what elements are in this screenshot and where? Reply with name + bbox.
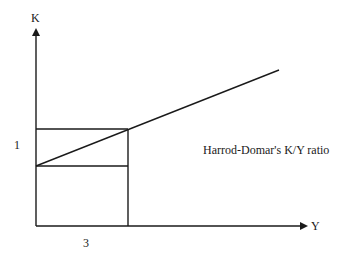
tick-label-3: 3 xyxy=(83,237,89,249)
diagram-caption: Harrod-Domar's K/Y ratio xyxy=(203,144,329,156)
k-axis-label: K xyxy=(31,12,40,24)
harrod-domar-diagram xyxy=(0,0,338,260)
y-axis-label: Y xyxy=(311,220,320,232)
tick-label-1: 1 xyxy=(14,139,20,151)
